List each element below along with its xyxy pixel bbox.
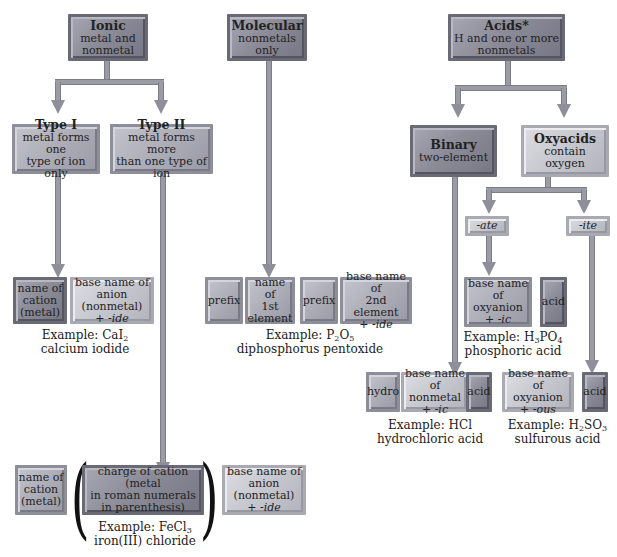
arrow-to-type1 <box>51 100 65 114</box>
ite-base-line3: + -ous <box>520 404 556 416</box>
binary-example-formula: Example: HCl <box>365 418 495 432</box>
category-molecular: Molecular nonmetals only <box>227 14 307 61</box>
plus: + <box>247 501 260 514</box>
ate-base-line3: + -ic <box>485 314 511 326</box>
type2-cation-box: name of cation (metal) <box>15 465 67 515</box>
plus: + <box>95 312 108 325</box>
element-o: O <box>339 328 349 342</box>
binary-base-line1: base name of <box>404 368 466 392</box>
type1-cation-line3: (metal) <box>20 307 60 319</box>
suffix-ous: -ous <box>533 403 556 416</box>
connector-acids-down <box>505 60 511 88</box>
category-molecular-line1: nonmetals <box>238 33 296 45</box>
suffix-ide: -ide <box>108 312 129 325</box>
ate-acid-box: acid <box>540 277 567 327</box>
group-so: SO <box>584 418 602 432</box>
type1-line1: metal forms one <box>15 132 97 156</box>
type1-cation-line1: name of <box>18 283 63 295</box>
molecular-first-line3: element <box>248 313 293 325</box>
molecular-example: Example: P2O5 diphosphorus pentoxide <box>230 328 390 356</box>
type1-anion-line1: base name of <box>75 277 149 289</box>
ionic-type-2: Type II metal forms more than one type o… <box>110 124 213 174</box>
ate-example-formula: Example: H3PO4 <box>458 330 568 344</box>
oxyacids-title: Oxyacids <box>534 132 596 146</box>
molecular-second-line1: base name of <box>343 271 409 295</box>
binary-hydro-label: hydro <box>367 386 399 398</box>
connector-oxy-split <box>486 187 587 193</box>
plus: + <box>520 403 533 416</box>
molecular-prefix2-label: prefix <box>303 295 335 307</box>
category-acids-title: Acids* <box>484 19 528 33</box>
molecular-prefix1-label: prefix <box>208 295 240 307</box>
type2-charge-box: charge of cation (metal in roman numeral… <box>82 465 204 515</box>
binary-hydro-box: hydro <box>366 372 400 412</box>
molecular-example-name: diphosphorus pentoxide <box>230 342 390 356</box>
connector-molecular-down <box>266 60 272 266</box>
ite-base-box: base name of oxyanion + -ous <box>502 372 574 412</box>
type1-example: Example: CaI2 calcium iodide <box>15 328 155 356</box>
connector-type2-drop <box>158 82 164 102</box>
connector-ate-down <box>486 234 492 264</box>
type2-charge-line1: charge of cation (metal <box>85 466 201 490</box>
binary-base-line2: nonmetal + -ic <box>404 392 466 416</box>
type2-anion-box: base name of anion (nonmetal) + -ide <box>222 465 306 515</box>
paren-close: ) <box>200 454 219 542</box>
suffix-ic: -ic <box>435 403 448 416</box>
binary-base-box: base name of nonmetal + -ic <box>401 372 469 412</box>
example-label: Example: P <box>266 328 335 342</box>
type2-example-name: iron(III) chloride <box>90 534 200 548</box>
type2-line1: metal forms more <box>113 132 210 156</box>
ate-example-name: phosphoric acid <box>458 344 568 358</box>
arrow-to-oxyacids <box>557 104 571 118</box>
type1-anion-line2: anion (nonmetal) <box>73 289 151 313</box>
type2-title: Type II <box>138 118 186 132</box>
category-ionic-line1: metal and <box>80 33 136 45</box>
suffix-ite: -ite <box>566 216 610 236</box>
group-po: PO <box>540 330 558 344</box>
type1-anion-box: base name of anion (nonmetal) + -ide <box>70 277 154 324</box>
ate-acid-label: acid <box>542 296 565 308</box>
connector-ite-down <box>589 234 595 362</box>
molecular-prefix2-box: prefix <box>300 277 338 324</box>
connector-type1-down <box>55 172 61 266</box>
type2-example-formula: Example: FeCl3 <box>90 520 200 534</box>
type1-example-name: calcium iodide <box>15 342 155 356</box>
acid-oxyacids: Oxyacids contain oxygen <box>521 125 609 177</box>
ionic-type-1: Type I metal forms one type of ion only <box>12 124 100 174</box>
type2-example: Example: FeCl3 iron(III) chloride <box>90 520 200 548</box>
molecular-first-line1: name of <box>248 277 292 301</box>
arrow-to-type2 <box>154 100 168 114</box>
molecular-prefix1-box: prefix <box>205 277 243 324</box>
category-acids-line1: H and one or more <box>454 33 559 45</box>
oxyacids-line2: oxygen <box>545 158 585 170</box>
example-label: Example: H <box>463 330 534 344</box>
subscript: 3 <box>602 424 607 433</box>
ite-example-name: sulfurous acid <box>500 432 615 446</box>
connector-type1-drop <box>55 82 61 102</box>
type2-line2: than one type of ion <box>113 156 210 180</box>
molecular-first-line2: 1st <box>261 301 278 313</box>
category-molecular-line2: only <box>255 45 278 57</box>
type2-anion-line2: anion (nonmetal) <box>225 478 303 502</box>
ite-base-line1: base name of <box>505 368 571 392</box>
ite-acid-label: acid <box>583 386 606 398</box>
suffix-ide: -ide <box>260 501 281 514</box>
example-label: Example: FeCl <box>98 520 186 534</box>
molecular-second-line2: 2nd element <box>343 295 409 319</box>
connector-acids-split <box>455 85 567 91</box>
category-ionic-title: Ionic <box>90 19 126 33</box>
binary-line1: two-element <box>419 152 488 164</box>
type2-charge-line3: in parenthesis) <box>101 502 185 514</box>
suffix-ic: -ic <box>498 313 511 326</box>
type2-anion-line3: + -ide <box>247 502 281 514</box>
arrow-to-type1-rule <box>51 264 65 278</box>
ite-example-formula: Example: H2SO3 <box>500 418 615 432</box>
connector-type2-down <box>160 172 166 464</box>
ite-acid-box: acid <box>582 372 608 412</box>
type1-line2: type of ion only <box>15 156 97 180</box>
binary-acid-box: acid <box>466 372 492 412</box>
category-acids-line2: nonmetals <box>478 45 536 57</box>
acid-binary: Binary two-element <box>410 125 497 177</box>
category-ionic: Ionic metal and nonmetal <box>68 14 148 61</box>
arrow-to-ate <box>482 200 496 214</box>
